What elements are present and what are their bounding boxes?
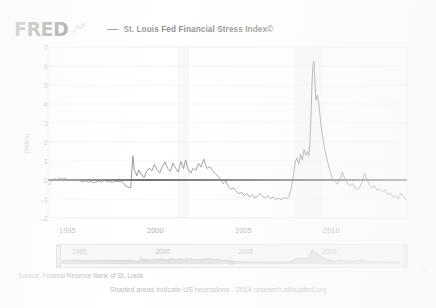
range-selector-grip-icon: III <box>229 260 234 266</box>
range-handle-right-icon[interactable] <box>403 245 408 267</box>
fred-chart-screenshot: FRED St. Louis Fed Financial Stress Inde… <box>0 0 436 308</box>
range-selector-year: 2000 <box>155 248 169 255</box>
recession-caption: Shaded areas indicate US recessions - 20… <box>0 285 436 294</box>
resize-corner-icon: ⤵ <box>419 262 426 272</box>
range-handle-left-icon[interactable] <box>56 245 61 267</box>
range-selector-year: 1995 <box>72 248 86 255</box>
source-text: Source: Federal Reserve Bank of St. Loui… <box>18 272 143 279</box>
range-selector[interactable]: 1995200020052010 III <box>56 244 408 268</box>
range-selector-year: 2010 <box>322 248 336 255</box>
range-selector-year: 2005 <box>239 248 253 255</box>
